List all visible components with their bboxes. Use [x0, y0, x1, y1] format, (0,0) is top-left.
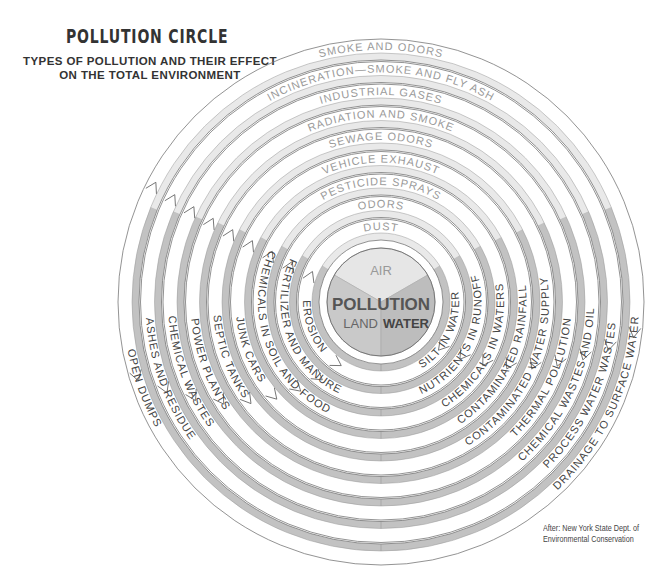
- center-pie: AIRPOLLUTIONLANDWATER: [327, 248, 435, 356]
- source-credit: After: New York State Dept. of Environme…: [543, 523, 639, 545]
- flow-arrow-icon: [165, 195, 176, 207]
- flow-arrow-icon: [243, 241, 254, 253]
- center-title: POLLUTION: [332, 295, 430, 314]
- pollution-circle-diagram: AIRPOLLUTIONLANDWATERDUSTEROSIONSILT IN …: [0, 0, 667, 583]
- flow-arrow-icon: [146, 182, 157, 194]
- flow-arrow-icon: [266, 388, 277, 399]
- credit-line-1: After: New York State Dept. of: [543, 523, 639, 534]
- flow-arrow-icon: [303, 271, 314, 283]
- flow-arrow-icon: [223, 230, 234, 242]
- credit-line-2: Environmental Conservation: [543, 534, 639, 545]
- sector-label-water: WATER: [383, 316, 430, 331]
- flow-arrow-icon: [203, 218, 214, 230]
- sector-label-air: AIR: [370, 263, 392, 278]
- air-label: ODORS: [357, 197, 406, 212]
- sector-label-land: LAND: [343, 316, 378, 331]
- flow-arrow-icon: [184, 207, 195, 219]
- air-label: DUST: [362, 220, 399, 234]
